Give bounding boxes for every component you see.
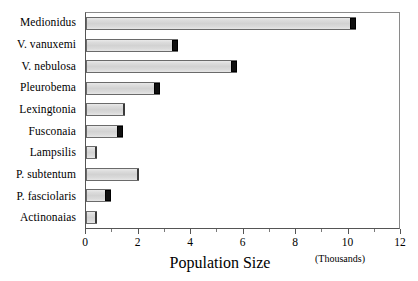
category-label: V. nebulosa (0, 55, 81, 77)
x-tick-minor (111, 229, 112, 232)
x-tick-label: 2 (135, 235, 141, 249)
bar-slot (86, 185, 399, 207)
x-axis-title: Population Size (115, 253, 325, 273)
x-tick-major (243, 229, 244, 234)
bar-slot (86, 142, 399, 164)
category-label: Fusconaia (0, 121, 81, 143)
bar-slot (86, 99, 399, 121)
category-axis: MedionidusV. vanuxemiV. nebulosaPleurobe… (0, 12, 81, 229)
x-tick-minor (269, 229, 270, 232)
bar-end-cap (137, 169, 139, 180)
x-tick-label: 10 (342, 235, 354, 249)
bar (86, 211, 97, 224)
bar-end-cap (117, 126, 123, 137)
x-tick-minor (216, 229, 217, 232)
category-label: Lampsilis (0, 142, 81, 164)
bar (86, 146, 97, 159)
x-tick-major (400, 229, 401, 234)
x-tick-major (138, 229, 139, 234)
x-tick-label: 4 (187, 235, 193, 249)
bar (86, 189, 111, 202)
bar (86, 168, 139, 181)
category-label: Medionidus (0, 12, 81, 34)
category-label: Actinonaias (0, 207, 81, 229)
bar-slot (86, 207, 399, 229)
bar-end-cap (95, 212, 97, 223)
x-tick-major (190, 229, 191, 234)
bar (86, 82, 160, 95)
bar-end-cap (123, 104, 125, 115)
x-tick-label: 8 (292, 235, 298, 249)
category-label: P. fasciolaris (0, 186, 81, 208)
x-tick-label: 12 (394, 235, 406, 249)
category-label: P. subtentum (0, 164, 81, 186)
x-tick-minor (374, 229, 375, 232)
bar-end-cap (105, 190, 111, 201)
bar-chart: MedionidusV. vanuxemiV. nebulosaPleurobe… (0, 0, 418, 281)
bar (86, 17, 356, 30)
bar (86, 103, 125, 116)
x-tick-label: 6 (240, 235, 246, 249)
bar-end-cap (172, 40, 178, 51)
bar (86, 125, 123, 138)
plot-area (85, 12, 400, 229)
bar-end-cap (350, 18, 356, 29)
x-tick-minor (321, 229, 322, 232)
bar-slot (86, 121, 399, 143)
x-axis-tick-labels: 024681012 (85, 235, 400, 251)
x-tick-minor (164, 229, 165, 232)
bar-end-cap (95, 147, 97, 158)
category-label: Lexingtonia (0, 99, 81, 121)
bar-slot (86, 164, 399, 186)
x-axis-units-note: (Thousands) (315, 252, 365, 266)
bar (86, 39, 178, 52)
bars-layer (86, 13, 399, 228)
bar-slot (86, 13, 399, 35)
bar (86, 60, 237, 73)
x-tick-label: 0 (82, 235, 88, 249)
bar-slot (86, 56, 399, 78)
x-tick-major (348, 229, 349, 234)
x-tick-major (85, 229, 86, 234)
bar-slot (86, 35, 399, 57)
bar-end-cap (154, 83, 160, 94)
category-label: Pleurobema (0, 77, 81, 99)
bar-end-cap (231, 61, 237, 72)
category-label: V. vanuxemi (0, 34, 81, 56)
bar-slot (86, 78, 399, 100)
x-tick-major (295, 229, 296, 234)
